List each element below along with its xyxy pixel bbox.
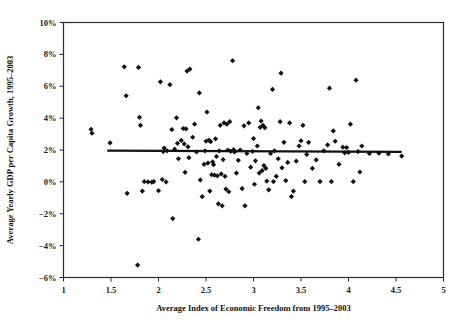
data-point bbox=[289, 194, 294, 199]
y-tick-label: −4% bbox=[39, 241, 57, 251]
data-point bbox=[175, 141, 180, 146]
x-tick-label: 4 bbox=[346, 285, 351, 295]
x-tick-label: 1.5 bbox=[106, 285, 117, 295]
data-point bbox=[138, 123, 143, 128]
data-point bbox=[88, 127, 93, 132]
data-point bbox=[182, 141, 187, 146]
data-point bbox=[158, 79, 163, 84]
data-point bbox=[176, 156, 181, 161]
data-points bbox=[88, 58, 404, 268]
data-point bbox=[234, 171, 239, 176]
data-point bbox=[198, 177, 203, 182]
data-point bbox=[136, 65, 141, 70]
data-point bbox=[281, 140, 286, 145]
data-point bbox=[246, 120, 251, 125]
data-point bbox=[190, 135, 195, 140]
data-point bbox=[329, 179, 334, 184]
data-point bbox=[89, 131, 94, 136]
data-point bbox=[278, 71, 283, 76]
data-point bbox=[174, 115, 179, 120]
data-point bbox=[207, 189, 212, 194]
x-tick-label: 2 bbox=[156, 285, 160, 295]
data-point bbox=[327, 86, 332, 91]
x-tick-label: 1 bbox=[61, 285, 65, 295]
data-point bbox=[348, 122, 353, 127]
data-point bbox=[399, 153, 404, 158]
data-point bbox=[204, 109, 209, 114]
data-point bbox=[306, 140, 311, 145]
data-point bbox=[241, 123, 246, 128]
y-tick-label: −6% bbox=[39, 273, 57, 283]
x-tick-label: 3 bbox=[251, 285, 255, 295]
data-point bbox=[294, 159, 299, 164]
data-point bbox=[230, 58, 235, 63]
data-point bbox=[266, 187, 271, 192]
data-point bbox=[287, 120, 292, 125]
data-point bbox=[169, 127, 174, 132]
data-point bbox=[240, 186, 245, 191]
trend-line bbox=[107, 151, 402, 152]
data-point bbox=[183, 170, 188, 175]
data-point bbox=[251, 136, 256, 141]
data-point bbox=[354, 78, 359, 83]
data-point bbox=[333, 139, 338, 144]
data-point bbox=[125, 191, 130, 196]
data-point bbox=[291, 189, 296, 194]
y-tick-label: −2% bbox=[39, 209, 57, 219]
data-point bbox=[179, 138, 184, 143]
y-tick-label: 2% bbox=[44, 145, 57, 155]
x-tick-label: 4.5 bbox=[391, 285, 402, 295]
data-point bbox=[253, 158, 258, 163]
data-point bbox=[270, 87, 275, 92]
data-point bbox=[274, 174, 279, 179]
data-point bbox=[197, 90, 202, 95]
x-axis-title: Average Index of Economic Freedom from 1… bbox=[156, 303, 351, 313]
y-tick-label: 6% bbox=[44, 81, 57, 91]
data-point bbox=[279, 165, 284, 170]
data-point bbox=[264, 178, 269, 183]
data-point bbox=[331, 128, 336, 133]
data-point bbox=[200, 194, 205, 199]
x-tick-label: 2.5 bbox=[201, 285, 212, 295]
y-tick-label: 10% bbox=[40, 18, 57, 28]
data-point bbox=[336, 162, 341, 167]
data-point bbox=[107, 140, 112, 145]
x-tick-label: 3.5 bbox=[296, 285, 307, 295]
data-point bbox=[310, 166, 315, 171]
data-point bbox=[252, 182, 257, 187]
data-point bbox=[276, 156, 281, 161]
y-tick-label: 8% bbox=[44, 49, 57, 59]
data-point bbox=[298, 138, 303, 143]
data-point bbox=[314, 157, 319, 162]
chart-canvas: −6%−4%−2%0%2%4%6%8%10%11.522.533.544.55A… bbox=[0, 0, 463, 327]
data-point bbox=[122, 64, 127, 69]
data-point bbox=[140, 189, 145, 194]
data-point bbox=[325, 142, 330, 147]
data-point bbox=[248, 165, 253, 170]
data-point bbox=[185, 144, 190, 149]
y-tick-label: 4% bbox=[44, 113, 57, 123]
data-point bbox=[283, 178, 288, 183]
data-point bbox=[135, 262, 140, 267]
data-point bbox=[221, 157, 226, 162]
data-point bbox=[196, 237, 201, 242]
data-point bbox=[344, 145, 349, 150]
data-point bbox=[124, 93, 129, 98]
data-point bbox=[192, 122, 197, 127]
data-point bbox=[297, 143, 302, 148]
data-point bbox=[214, 154, 219, 159]
data-point bbox=[242, 203, 247, 208]
data-point bbox=[156, 188, 161, 193]
data-point bbox=[256, 105, 261, 110]
x-tick-label: 5 bbox=[441, 285, 445, 295]
data-point bbox=[255, 143, 260, 148]
y-tick-label: 0% bbox=[44, 177, 57, 187]
data-point bbox=[300, 123, 305, 128]
data-point bbox=[170, 216, 175, 221]
data-point bbox=[186, 155, 191, 160]
data-point bbox=[351, 179, 356, 184]
data-point bbox=[278, 119, 283, 124]
data-point bbox=[285, 160, 290, 165]
data-point bbox=[317, 179, 322, 184]
scatter-chart: −6%−4%−2%0%2%4%6%8%10%11.522.533.544.55A… bbox=[0, 0, 463, 327]
